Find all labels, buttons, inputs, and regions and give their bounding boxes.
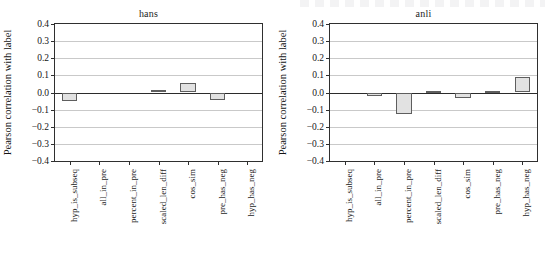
y-axis-tick-label: 0.1 (312, 70, 324, 80)
y-axis-tick (51, 58, 55, 59)
y-axis-tick-label: −0.4 (307, 156, 324, 166)
y-axis-tick-label: −0.1 (307, 105, 324, 115)
x-axis-tick (345, 161, 346, 165)
bar (426, 91, 441, 93)
y-axis-tick (326, 127, 330, 128)
bar (455, 93, 470, 98)
bar (367, 93, 382, 96)
plot-area: 0.40.30.20.10.0−0.1−0.2−0.3−0.4hyp_is_su… (329, 23, 538, 162)
x-axis-tick (218, 161, 219, 165)
y-axis-label: Pearson correlation with label (1, 22, 15, 162)
chart-title: anli (275, 8, 550, 19)
y-axis-tick (326, 58, 330, 59)
y-axis-tick (326, 41, 330, 42)
x-axis-tick-label: cos_sim (462, 169, 472, 199)
x-axis-tick-label: all_in_pre (373, 169, 383, 206)
x-axis-tick (188, 161, 189, 165)
y-axis-tick-label: 0.2 (37, 53, 49, 63)
x-axis-tick-label: scaled_len_diff (158, 169, 168, 224)
bar-series (330, 24, 537, 161)
y-axis-tick-label: 0.0 (312, 88, 324, 98)
chart-panel-hans: hans Pearson correlation with label 0.40… (0, 0, 275, 270)
y-axis-tick-label: −0.3 (32, 139, 49, 149)
y-axis-tick (51, 110, 55, 111)
y-axis-tick-label: 0.2 (312, 53, 324, 63)
y-axis-tick-label: −0.2 (307, 122, 324, 132)
bar (151, 90, 166, 92)
y-axis-tick-label: 0.4 (312, 19, 324, 29)
y-axis-tick (326, 93, 330, 94)
x-axis-tick-label: all_in_pre (98, 169, 108, 206)
y-axis-tick-label: 0.4 (37, 19, 49, 29)
x-axis-tick (463, 161, 464, 165)
x-axis-tick-label: hyp_has_neg (521, 169, 531, 217)
x-axis-tick (70, 161, 71, 165)
bar (396, 93, 411, 115)
y-axis-tick (326, 144, 330, 145)
y-axis-tick-label: −0.4 (32, 156, 49, 166)
y-axis-tick (51, 127, 55, 128)
x-axis-tick (404, 161, 405, 165)
x-axis-tick-label: cos_sim (187, 169, 197, 199)
y-axis-tick-label: −0.2 (32, 122, 49, 132)
x-axis-tick-label: percent_in_pre (128, 169, 138, 223)
scan-artifact (300, 0, 545, 7)
x-axis-tick (129, 161, 130, 165)
y-axis-tick (51, 41, 55, 42)
y-axis-tick (51, 24, 55, 25)
bar (180, 83, 195, 92)
y-axis-tick (326, 24, 330, 25)
y-axis-tick-label: −0.1 (32, 105, 49, 115)
y-axis-tick (326, 161, 330, 162)
y-axis-tick-label: 0.0 (37, 88, 49, 98)
x-axis-tick (99, 161, 100, 165)
x-axis-tick-label: hyp_is_subseq (69, 169, 79, 222)
x-axis-tick (493, 161, 494, 165)
plot-area: 0.40.30.20.10.0−0.1−0.2−0.3−0.4hyp_is_su… (54, 23, 263, 162)
bar (210, 93, 225, 101)
y-axis-tick (51, 75, 55, 76)
x-axis-tick (434, 161, 435, 165)
y-axis-tick-label: 0.3 (312, 36, 324, 46)
bar-series (55, 24, 262, 161)
y-axis-tick (51, 93, 55, 94)
figure-container: hans Pearson correlation with label 0.40… (0, 0, 550, 270)
x-axis-tick-label: hyp_is_subseq (344, 169, 354, 222)
y-axis-tick-label: 0.1 (37, 70, 49, 80)
x-axis-tick (159, 161, 160, 165)
chart-title: hans (0, 8, 275, 19)
x-axis-tick-label: scaled_len_diff (433, 169, 443, 224)
x-axis-tick (374, 161, 375, 165)
y-axis-tick (51, 161, 55, 162)
bar (515, 77, 530, 93)
bar (62, 93, 77, 101)
chart-panel-anli: anli Pearson correlation with label 0.40… (275, 0, 550, 270)
x-axis-tick-label: pre_has_neg (217, 169, 227, 214)
x-axis-tick-label: percent_in_pre (403, 169, 413, 223)
y-axis-tick (326, 110, 330, 111)
y-axis-label: Pearson correlation with label (276, 22, 290, 162)
y-axis-tick (51, 144, 55, 145)
x-axis-tick-label: hyp_has_neg (246, 169, 256, 217)
y-axis-tick (326, 75, 330, 76)
bar (485, 91, 500, 93)
x-axis-tick (247, 161, 248, 165)
x-axis-tick (522, 161, 523, 165)
x-axis-tick-label: pre_has_neg (492, 169, 502, 214)
y-axis-tick-label: 0.3 (37, 36, 49, 46)
y-axis-tick-label: −0.3 (307, 139, 324, 149)
